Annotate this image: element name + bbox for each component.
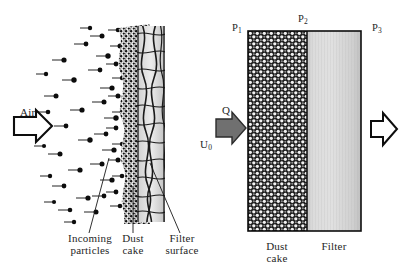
face-velocity-subscript: 0 (208, 143, 212, 152)
callout-filter-surface-line2: surface (158, 244, 206, 256)
right-panel-graphic (216, 31, 397, 231)
face-velocity-symbol: U (200, 138, 208, 150)
callout-dust-cake-line1: Dust (110, 232, 156, 244)
pressure-label-p1-subscript: 1 (238, 26, 242, 35)
callout-filter-surface-line1: Filter (158, 232, 206, 244)
layer-caption-filter: Filter (311, 240, 357, 252)
pressure-label-p2-subscript: 2 (304, 17, 308, 26)
dust-cake-block (248, 31, 307, 231)
pressure-label-p2: P2 (298, 13, 308, 28)
face-velocity-label: U0 (200, 138, 212, 154)
pressure-label-p3-subscript: 3 (378, 26, 382, 35)
pressure-label-p1: P1 (232, 22, 242, 37)
pressure-label-p3: P3 (372, 22, 382, 37)
left-panel-graphic (14, 22, 180, 233)
figure-root: Air Incoming particles Dust cake Filter … (0, 0, 405, 277)
layer-caption-dust-cake: Dust cake (254, 240, 300, 264)
layer-caption-dust-cake-line2: cake (254, 252, 300, 264)
callout-filter-surface: Filter surface (158, 232, 206, 256)
flow-inlet-arrow (216, 112, 246, 144)
flow-rate-label: Q (222, 104, 230, 116)
layer-caption-dust-cake-line1: Dust (254, 240, 300, 252)
flow-outlet-arrow (371, 113, 397, 145)
woven-filter-fabric (137, 24, 168, 230)
layer-caption-filter-line1: Filter (311, 240, 357, 252)
callout-dust-cake: Dust cake (110, 232, 156, 256)
air-inlet-label: Air (20, 106, 35, 118)
callout-dust-cake-line2: cake (110, 244, 156, 256)
